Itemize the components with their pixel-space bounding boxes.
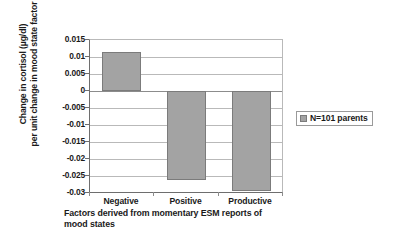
y-axis-title-line-1: Change in cortisol (µg/dl) — [18, 2, 29, 147]
y-tick-label-6: -0.015 — [39, 137, 85, 146]
x-category-label-productive: Productive — [218, 196, 282, 206]
y-tick-label-1: 0.01 — [39, 52, 85, 61]
plot-area — [89, 39, 283, 193]
y-tick-label-2: 0.005 — [39, 69, 85, 78]
chart-legend[interactable]: N=101 parents — [296, 111, 373, 126]
y-tick-label-9: -0.03 — [39, 188, 85, 197]
y-axis-title-line-2: per unit change in mood state factor — [29, 2, 40, 147]
bar-productive[interactable] — [232, 91, 271, 191]
x-axis-title-line-1: Factors derived from momentary ESM repor… — [64, 208, 314, 219]
legend-swatch-icon — [300, 115, 307, 122]
y-tick-label-3: 0 — [39, 86, 85, 95]
y-tick-label-8: -0.025 — [39, 171, 85, 180]
x-axis-title-line-2: mood states — [64, 219, 314, 230]
y-axis-title: Change in cortisol (µg/dl) per unit chan… — [12, 0, 46, 159]
y-tick-label-7: -0.02 — [39, 154, 85, 163]
x-category-label-negative: Negative — [89, 196, 153, 206]
y-tick-label-4: -0.005 — [39, 103, 85, 112]
y-tick-label-0: 0.015 — [39, 35, 85, 44]
legend-label: N=101 parents — [310, 114, 368, 123]
y-axis-title-text: Change in cortisol (µg/dl) per unit chan… — [18, 2, 39, 147]
x-axis-title: Factors derived from momentary ESM repor… — [64, 208, 314, 230]
x-tick-mark-3 — [282, 192, 283, 196]
bar-negative[interactable] — [102, 52, 141, 91]
y-tick-label-5: -0.01 — [39, 120, 85, 129]
x-category-label-positive: Positive — [153, 196, 218, 206]
bar-chart-figure: Change in cortisol (µg/dl) per unit chan… — [0, 0, 398, 231]
bar-positive[interactable] — [167, 91, 206, 180]
